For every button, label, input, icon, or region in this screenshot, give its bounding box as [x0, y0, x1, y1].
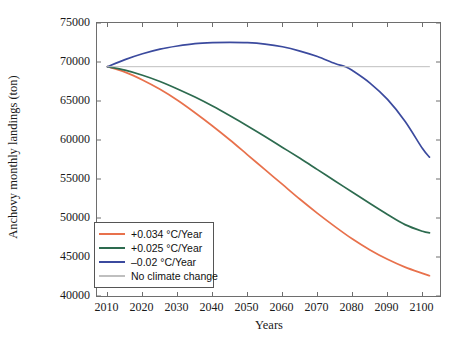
legend-item-2: –0.02 °C/Year — [99, 255, 208, 269]
legend-item-0: +0.034 °C/Year — [99, 227, 208, 241]
x-axis-tick-labels: 2010202020302040205020602070208020902100 — [96, 301, 441, 317]
legend-label-3: No climate change — [131, 271, 218, 282]
chart-figure: Anchovy monthly landings (ton) 400004500… — [0, 0, 464, 342]
y-tick-label: 60000 — [36, 133, 90, 145]
legend-swatch-3 — [99, 275, 125, 277]
y-tick-label: 75000 — [36, 16, 90, 28]
legend-label-0: +0.034 °C/Year — [131, 229, 202, 240]
chart-legend: +0.034 °C/Year+0.025 °C/Year–0.02 °C/Yea… — [94, 222, 214, 288]
y-tick-label: 65000 — [36, 94, 90, 106]
legend-label-2: –0.02 °C/Year — [131, 257, 196, 268]
y-tick-label: 55000 — [36, 172, 90, 184]
y-axis-tick-labels: 4000045000500005500060000650007000075000 — [32, 22, 90, 297]
y-tick-label: 50000 — [36, 211, 90, 223]
legend-item-1: +0.025 °C/Year — [99, 241, 208, 255]
y-tick-label: 40000 — [36, 289, 90, 301]
legend-label-1: +0.025 °C/Year — [131, 243, 202, 254]
series-line-2 — [108, 42, 430, 157]
y-tick-label: 45000 — [36, 250, 90, 262]
legend-swatch-1 — [99, 247, 125, 249]
legend-item-3: No climate change — [99, 269, 208, 283]
y-axis-title: Anchovy monthly landings (ton) — [2, 12, 24, 302]
y-axis-title-text: Anchovy monthly landings (ton) — [6, 75, 21, 239]
x-axis-title: Years — [96, 318, 442, 333]
y-tick-label: 70000 — [36, 55, 90, 67]
series-line-1 — [108, 67, 430, 233]
x-tick-label: 2100 — [399, 301, 445, 313]
legend-swatch-0 — [99, 233, 125, 235]
legend-swatch-2 — [99, 261, 125, 263]
